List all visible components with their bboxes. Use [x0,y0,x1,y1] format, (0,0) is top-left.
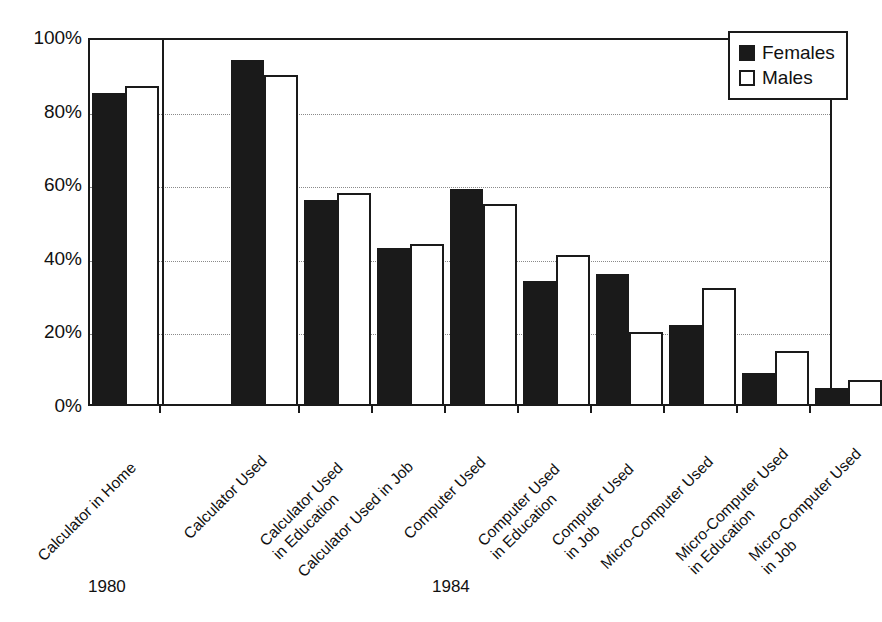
legend-label-females: Females [762,42,835,64]
legend-label-males: Males [762,67,813,89]
year-label-1984: 1984 [432,577,470,597]
x-label-line1: Calculator in Home [34,459,141,566]
legend-item-females: Females [739,40,837,65]
x-label-calculator-used-in-education: Calculator Used in Education [256,459,361,564]
x-label-calculator-in-home: Calculator in Home [34,459,141,566]
x-label-calculator-used: Calculator Used [180,452,271,543]
legend: Females Males [728,31,848,100]
year-label-1980: 1980 [88,577,126,597]
x-label-line1: Calculator Used [180,452,271,543]
legend-swatch-females-icon [739,45,755,61]
legend-item-males: Males [739,65,837,90]
legend-swatch-males-icon [739,70,755,86]
